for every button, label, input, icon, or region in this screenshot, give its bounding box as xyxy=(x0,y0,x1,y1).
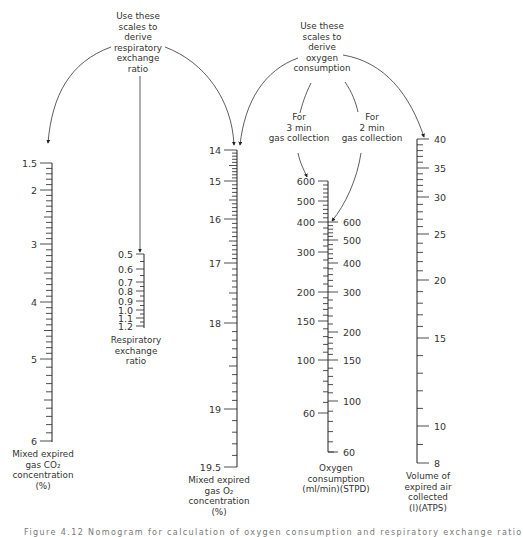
tick-label: 3 xyxy=(31,239,37,250)
tick-label: 0.5 xyxy=(118,249,133,260)
rer-note-arrows xyxy=(48,47,234,252)
tick-label: 40 xyxy=(434,134,446,145)
tick-label: 25 xyxy=(434,229,446,240)
tick-label: 1.5 xyxy=(22,158,37,169)
tick-label: 4 xyxy=(31,297,37,308)
tick-label: 30 xyxy=(434,192,446,203)
tick-label: 18 xyxy=(209,318,221,329)
tick-label: 200 xyxy=(343,327,361,338)
tick-label: 16 xyxy=(209,214,221,225)
tick-label: 14 xyxy=(209,145,221,156)
tick-label: 8 xyxy=(434,458,440,469)
o2-note: Use these scales to derive oxygen consum… xyxy=(282,21,362,74)
co2-scale-title: Mixed expired gas CO₂ concentration (%) xyxy=(8,449,78,491)
tick-label: 300 xyxy=(343,287,361,298)
figure-caption: Figure 4.12 Nomogram for calculation of … xyxy=(24,528,523,537)
rer-scale-title: Respiratory exchange ratio xyxy=(104,335,168,367)
tick-label: 10 xyxy=(434,421,446,432)
tick-label: 60 xyxy=(343,447,355,458)
tick-label: 600 xyxy=(297,176,315,187)
ve-scale-title: Volume of expired air collected (l)(ATPS… xyxy=(393,471,463,513)
two-min-note: For 2 min gas collection xyxy=(337,112,407,144)
tick-label: 5 xyxy=(31,354,37,365)
tick-label: 2 xyxy=(31,185,37,196)
tick-label: 300 xyxy=(297,247,315,258)
tick-label: 150 xyxy=(343,355,361,366)
rer-scale: 0.50.60.70.80.91.01.11.2 xyxy=(118,249,144,332)
tick-label: 150 xyxy=(297,316,315,327)
tick-label: 500 xyxy=(343,235,361,246)
tick-label: 0.6 xyxy=(118,264,133,275)
tick-label: 600 xyxy=(343,217,361,228)
tick-label: 6 xyxy=(31,436,37,447)
tick-label: 200 xyxy=(297,287,315,298)
tick-label: 35 xyxy=(434,163,446,174)
tick-label: 20 xyxy=(434,275,446,286)
tick-label: 19 xyxy=(209,404,221,415)
vo2-scale-title: Oxygen consumption (ml/min)(STPD) xyxy=(296,463,376,495)
tick-label: 100 xyxy=(297,355,315,366)
tick-label: 500 xyxy=(297,196,315,207)
tick-label: 19.5 xyxy=(200,462,221,473)
tick-label: 17 xyxy=(209,258,221,269)
three-min-note: For 3 min gas collection xyxy=(264,112,334,144)
tick-label: 400 xyxy=(297,217,315,228)
tick-label: 1.2 xyxy=(118,321,133,332)
tick-label: 100 xyxy=(343,396,361,407)
tick-label: 15 xyxy=(209,176,221,187)
rer-note: Use these scales to derive respiratory e… xyxy=(98,11,178,74)
tick-label: 400 xyxy=(343,258,361,269)
tick-label: 15 xyxy=(434,333,446,344)
ve-scale: 403530252015108 xyxy=(417,134,446,469)
co2-scale: 1.523456 xyxy=(22,158,52,447)
tick-label: 60 xyxy=(303,408,315,419)
o2-scale: 14151617181919.5 xyxy=(200,145,237,473)
vo2-scale: 6005004003002001501006060050040030020015… xyxy=(297,176,361,458)
o2-scale-title: Mixed expired gas O₂ concentration (%) xyxy=(184,475,254,517)
